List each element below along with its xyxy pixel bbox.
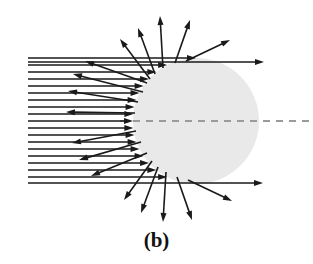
panel-label: (b) [0,228,313,253]
incident-ray [28,125,133,131]
incident-ray [28,139,137,145]
forward-ray-bottom [28,180,263,186]
incident-ray [28,69,156,75]
incident-ray [28,118,133,124]
scattered-ray-up-3 [158,16,164,68]
scattered-ray-back-2 [73,73,143,92]
incident-ray [28,104,135,110]
scattering-svg-canvas [0,0,313,264]
forward-ray-top [28,59,264,65]
incident-ray [28,55,196,61]
scattered-ray-down-3 [161,172,167,222]
scattered-ray-up-1 [120,39,150,79]
scattered-ray-up-5 [186,40,230,61]
incident-ray [28,167,156,173]
incident-ray [28,160,149,166]
scattering-diagram: (b) [0,0,313,264]
